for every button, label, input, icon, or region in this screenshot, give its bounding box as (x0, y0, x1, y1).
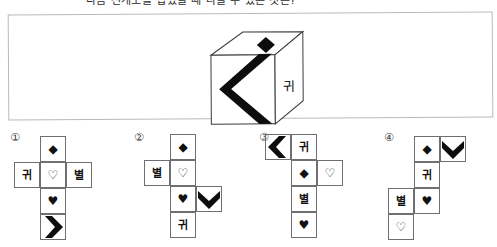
cell-byeol: 별 (388, 188, 414, 214)
cube-svg: 귀 (207, 29, 316, 130)
cell-gwi: 귀 (414, 162, 440, 188)
net-3: 귀◆♡별♥ (251, 126, 375, 247)
cell-open-heart: ♡ (317, 160, 343, 186)
cell-gwi: 귀 (291, 134, 317, 160)
net-1: ◆귀♡별♥ (2, 126, 126, 247)
cell-chevron (40, 214, 66, 240)
cell-byeol: 별 (291, 186, 317, 212)
cube-3d: 귀 (207, 29, 316, 130)
cell-solid-heart: ♥ (170, 186, 196, 212)
question-text: 다음 전개도를 접었을 때 나올 수 있는 것은? (86, 0, 296, 7)
cell-byeol: 별 (144, 160, 170, 186)
cell-open-heart: ♡ (388, 214, 414, 240)
cell-chevron (196, 186, 222, 212)
cell-open-heart: ♡ (170, 160, 196, 186)
cell-diamond: ◆ (414, 136, 440, 162)
cell-solid-heart: ♥ (414, 188, 440, 214)
net-2: ◆별♡♥귀 (126, 126, 250, 247)
stimulus-panel: 귀 (8, 12, 494, 121)
cube-face-right-label: 귀 (283, 79, 295, 94)
answer-option-4[interactable]: ④ ◆귀별♥♡ (376, 126, 497, 247)
cell-chevron (440, 136, 466, 162)
cell-solid-heart: ♥ (291, 212, 317, 238)
cell-chevron (265, 134, 291, 160)
cell-gwi: 귀 (14, 162, 40, 188)
answer-option-2[interactable]: ② ◆별♡♥귀 (126, 126, 250, 247)
cell-open-heart: ♡ (40, 162, 66, 188)
answer-option-3[interactable]: ③ 귀◆♡별♥ (251, 126, 375, 247)
question-strip: 다음 전개도를 접었을 때 나올 수 있는 것은? (0, 0, 497, 11)
cell-gwi: 귀 (170, 212, 196, 238)
cell-diamond: ◆ (170, 134, 196, 160)
cell-diamond: ◆ (291, 160, 317, 186)
answer-option-1[interactable]: ① ◆귀♡별♥ (2, 126, 126, 247)
cell-byeol: 별 (66, 162, 92, 188)
cell-diamond: ◆ (40, 136, 66, 162)
net-4: ◆귀별♥♡ (376, 126, 497, 247)
cell-solid-heart: ♥ (40, 188, 66, 214)
